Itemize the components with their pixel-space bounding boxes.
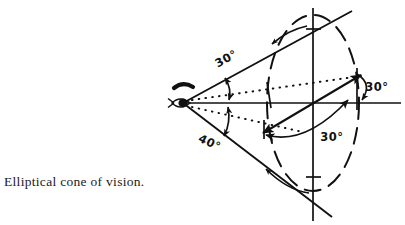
elliptical-cone-diagram: 30° 40° 30° 30° — [0, 0, 405, 225]
right-rotation-angle-label: 30° — [365, 80, 388, 94]
lower-rotation-angle-label: 30° — [320, 130, 343, 144]
reference-axes — [183, 8, 401, 221]
ellipse-top-rotation-arrow — [272, 26, 307, 44]
lower-cone-edge — [183, 103, 332, 217]
eye-symbol — [168, 84, 193, 107]
figure-elliptical-cone-of-vision: 30° 40° 30° 30° Elliptical cone of visio… — [0, 0, 405, 225]
upper-angle-arrow — [225, 78, 230, 100]
lower-cone-angle-label: 40° — [196, 131, 223, 154]
upper-cone-angle-label: 30° — [212, 47, 239, 71]
major-axis-double-arrow — [263, 75, 361, 133]
figure-caption: Elliptical cone of vision. — [4, 174, 145, 190]
lower-angle-arrow — [224, 107, 229, 136]
upper-dotted-ray — [192, 76, 361, 100]
